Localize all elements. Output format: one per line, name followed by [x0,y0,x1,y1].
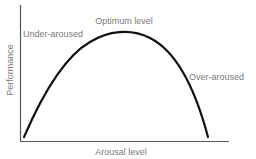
performance-curve [24,32,208,137]
optimum-level-label: Optimum level [95,16,153,26]
over-aroused-label: Over-aroused [189,72,244,82]
inverted-u-diagram: Under-aroused Optimum level Over-aroused… [0,0,256,159]
under-aroused-label: Under-aroused [23,29,83,39]
x-axis-label: Arousal level [95,147,147,157]
y-axis-label: Performance [5,44,15,96]
